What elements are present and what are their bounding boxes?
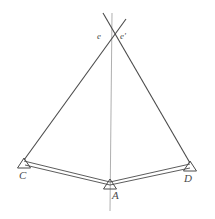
beam-right-bottom-chord <box>110 168 190 185</box>
diagonal-member-right <box>103 13 190 163</box>
diagram-canvas <box>0 0 215 219</box>
apex-label-e-prime: e' <box>120 32 126 41</box>
geometry-diagram: e e' C A D <box>0 0 215 219</box>
support-label-d: D <box>184 173 192 184</box>
beam-left-top-chord <box>24 161 110 182</box>
beam-left-bottom-chord <box>25 165 110 185</box>
support-label-a: A <box>112 190 119 201</box>
support-label-c: C <box>19 170 26 181</box>
beam-right-top-chord <box>110 164 190 182</box>
apex-label-e: e <box>97 32 101 41</box>
